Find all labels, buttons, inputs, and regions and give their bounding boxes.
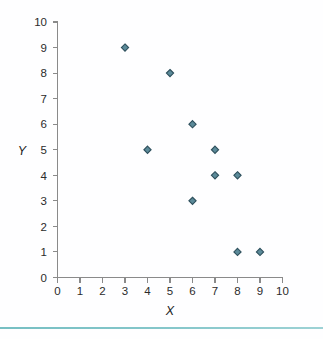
y-tick-label: 3 [41, 195, 47, 207]
data-point-marker [166, 70, 173, 77]
x-axis-ticks [58, 278, 283, 283]
x-tick-label: 10 [276, 285, 289, 297]
y-tick-label: 6 [41, 118, 47, 130]
data-point-marker [211, 172, 218, 179]
x-tick-label: 3 [122, 285, 128, 297]
data-point-marker [189, 197, 196, 204]
x-tick-label: 6 [189, 285, 195, 297]
y-tick-label: 0 [41, 272, 47, 284]
x-tick-label: 5 [167, 285, 173, 297]
y-tick-label: 7 [41, 93, 47, 105]
x-tick-label: 7 [212, 285, 218, 297]
data-point-marker [121, 44, 128, 51]
y-tick-label: 2 [41, 221, 47, 233]
y-tick-label: 1 [41, 246, 47, 258]
x-tick-label: 4 [144, 285, 151, 297]
y-tick-label: 10 [34, 16, 47, 28]
y-tick-label: 9 [41, 42, 47, 54]
data-point-marker [189, 121, 196, 128]
x-tick-label: 8 [234, 285, 240, 297]
footer-divider [0, 327, 323, 329]
x-tick-label: 1 [77, 285, 83, 297]
data-point-marker [144, 146, 151, 153]
y-axis-title: Y [18, 144, 28, 158]
y-axis-ticks [53, 22, 58, 278]
y-tick-label: 8 [41, 67, 47, 79]
x-tick-label: 9 [257, 285, 263, 297]
y-axis-tick-labels: 10 9 8 7 6 5 4 3 2 1 0 [34, 16, 47, 284]
y-tick-label: 5 [41, 144, 47, 156]
data-point-marker [234, 172, 241, 179]
x-axis-tick-labels: 0 1 2 3 4 5 6 7 8 9 10 [54, 285, 289, 297]
x-tick-label: 2 [99, 285, 105, 297]
data-point-marker [256, 248, 263, 255]
x-axis-title: X [165, 304, 175, 318]
scatter-plot-canvas: 10 9 8 7 6 5 4 3 2 1 0 0 [0, 0, 323, 339]
x-tick-label: 0 [54, 285, 60, 297]
y-tick-label: 4 [41, 170, 48, 182]
data-point-marker [211, 146, 218, 153]
scatter-plot-figure: 10 9 8 7 6 5 4 3 2 1 0 0 [0, 0, 323, 339]
data-point-marker [234, 248, 241, 255]
data-point-group [121, 44, 263, 256]
